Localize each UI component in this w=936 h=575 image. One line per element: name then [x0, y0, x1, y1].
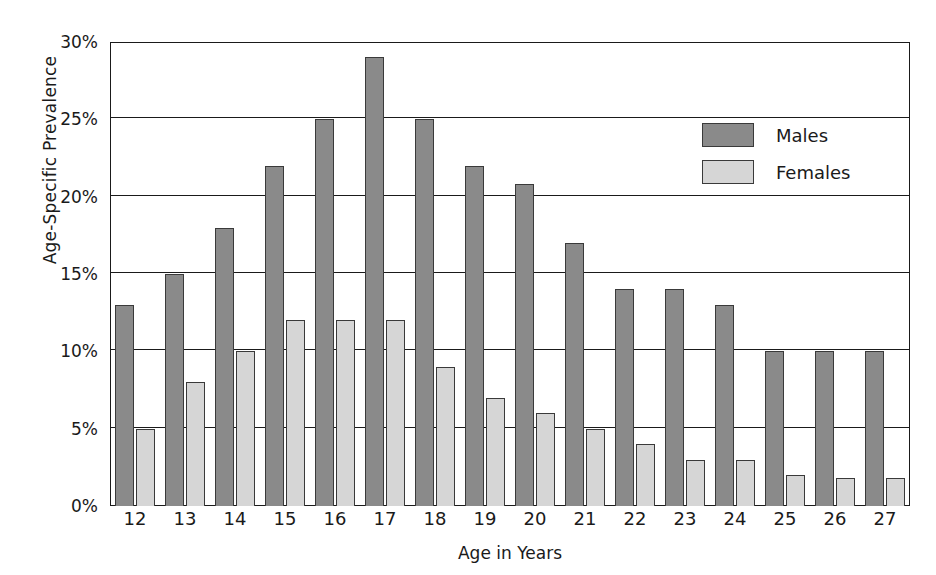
x-axis-tick-label: 23: [674, 508, 697, 529]
gridline: [111, 117, 909, 118]
x-axis-tick-label: 22: [624, 508, 647, 529]
x-axis-tick-label: 21: [574, 508, 597, 529]
legend-item-males: Males: [702, 122, 892, 148]
legend-item-females: Females: [702, 159, 892, 185]
x-axis-tick-label: 20: [524, 508, 547, 529]
x-axis-tick-label: 24: [724, 508, 747, 529]
x-axis-tick-label: 14: [224, 508, 247, 529]
legend-label-females: Females: [776, 162, 850, 183]
y-axis-tick-labels: 0%5%10%15%20%25%30%: [0, 42, 104, 506]
x-axis-tick-label: 12: [124, 508, 147, 529]
bar-chart: Age-Specific Prevalence 0%5%10%15%20%25%…: [0, 0, 936, 575]
x-axis-tick-label: 25: [774, 508, 797, 529]
gridline: [111, 272, 909, 273]
gridline: [111, 427, 909, 428]
x-axis-title: Age in Years: [110, 543, 910, 563]
x-axis-tick-label: 15: [274, 508, 297, 529]
x-axis-tick-label: 17: [374, 508, 397, 529]
x-axis-tick-label: 27: [874, 508, 897, 529]
x-axis-tick-labels: 12131415161718192021222324252627: [110, 508, 910, 538]
gridline: [111, 349, 909, 350]
plot-area: [110, 42, 910, 506]
x-axis-tick-label: 13: [174, 508, 197, 529]
legend-swatch-females: [702, 160, 754, 184]
y-axis-tick-label: 30%: [60, 32, 98, 52]
y-axis-tick-label: 15%: [60, 264, 98, 284]
x-axis-tick-label: 26: [824, 508, 847, 529]
legend-swatch-males: [702, 123, 754, 147]
legend-label-males: Males: [776, 125, 828, 146]
y-axis-tick-label: 5%: [71, 419, 98, 439]
y-axis-tick-label: 10%: [60, 341, 98, 361]
x-axis-tick-label: 18: [424, 508, 447, 529]
y-axis-tick-label: 20%: [60, 187, 98, 207]
y-axis-tick-label: 25%: [60, 109, 98, 129]
chart-legend: MalesFemales: [702, 122, 892, 196]
x-axis-tick-label: 19: [474, 508, 497, 529]
y-axis-tick-label: 0%: [71, 496, 98, 516]
x-axis-tick-label: 16: [324, 508, 347, 529]
